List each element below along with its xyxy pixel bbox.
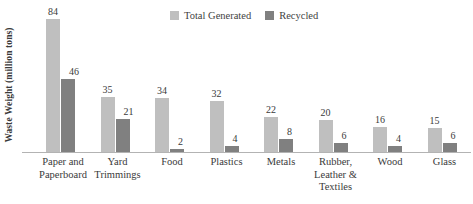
category-label-line: Paper and xyxy=(32,156,94,169)
bar-rect[interactable] xyxy=(264,117,278,152)
bar-rect[interactable] xyxy=(334,143,348,153)
bar-group: 3521 xyxy=(93,4,143,152)
bar-rect[interactable] xyxy=(116,119,130,152)
bar-group: 156 xyxy=(420,4,470,152)
y-axis-title: Waste Weight (million tons) xyxy=(2,20,16,150)
bar-total-generated[interactable]: 34 xyxy=(155,4,169,152)
bar-total-generated[interactable]: 84 xyxy=(46,4,60,152)
category-label-line: Paperboard xyxy=(32,169,94,182)
category-label-line: Food xyxy=(141,156,203,169)
bar-group: 8446 xyxy=(38,4,88,152)
bar-total-generated[interactable]: 15 xyxy=(428,4,442,152)
x-axis-category-label: YardTrimmings xyxy=(87,156,149,181)
category-label-line: Yard xyxy=(87,156,149,169)
bar-recycled[interactable]: 4 xyxy=(225,4,239,152)
category-label-line: Textiles xyxy=(305,181,367,194)
bar-rect[interactable] xyxy=(443,143,457,153)
bar-recycled[interactable]: 6 xyxy=(443,4,457,152)
bar-group: 164 xyxy=(365,4,415,152)
bar-recycled[interactable]: 21 xyxy=(116,4,130,152)
category-label-line: Rubber, xyxy=(305,156,367,169)
bar-recycled[interactable]: 4 xyxy=(388,4,402,152)
bar-rect[interactable] xyxy=(170,149,184,152)
bar-rect[interactable] xyxy=(388,146,402,152)
bar-rect[interactable] xyxy=(155,98,169,152)
plot-area: 84463521342324228206164156 xyxy=(22,4,471,153)
category-label-line: Glass xyxy=(414,156,473,169)
bar-rect[interactable] xyxy=(46,19,60,152)
bar-total-generated[interactable]: 35 xyxy=(101,4,115,152)
x-axis-category-label: Food xyxy=(141,156,203,169)
x-axis-category-label: Glass xyxy=(414,156,473,169)
bar-group: 342 xyxy=(147,4,197,152)
bar-recycled[interactable]: 6 xyxy=(334,4,348,152)
category-label-line: Trimmings xyxy=(87,169,149,182)
bar-group: 228 xyxy=(256,4,306,152)
bar-total-generated[interactable]: 22 xyxy=(264,4,278,152)
category-label-line: Plastics xyxy=(196,156,258,169)
bar-group: 324 xyxy=(202,4,252,152)
category-label-line: Leather & xyxy=(305,169,367,182)
x-axis-category-label: Paper andPaperboard xyxy=(32,156,94,181)
y-axis-title-text: Waste Weight (million tons) xyxy=(4,27,14,142)
bar-rect[interactable] xyxy=(210,101,224,152)
bar-recycled[interactable]: 46 xyxy=(61,4,75,152)
category-label-line: Wood xyxy=(359,156,421,169)
bar-rect[interactable] xyxy=(428,128,442,152)
x-axis-category-label: Metals xyxy=(250,156,312,169)
x-axis-category-label: Rubber,Leather &Textiles xyxy=(305,156,367,194)
bar-rect[interactable] xyxy=(279,139,293,152)
x-axis-category-labels: Paper andPaperboardYardTrimmingsFoodPlas… xyxy=(22,156,471,202)
x-axis-category-label: Plastics xyxy=(196,156,258,169)
bar-rect[interactable] xyxy=(225,146,239,152)
bar-group: 206 xyxy=(311,4,361,152)
bar-value-label: 6 xyxy=(451,130,473,141)
x-axis-line xyxy=(22,152,471,153)
x-axis-category-label: Wood xyxy=(359,156,421,169)
bar-chart: Total GeneratedRecycled Waste Weight (mi… xyxy=(0,0,473,204)
category-label-line: Metals xyxy=(250,156,312,169)
bar-recycled[interactable]: 2 xyxy=(170,4,184,152)
bar-total-generated[interactable]: 20 xyxy=(319,4,333,152)
bar-rect[interactable] xyxy=(101,97,115,152)
bar-total-generated[interactable]: 32 xyxy=(210,4,224,152)
bar-rect[interactable] xyxy=(373,127,387,152)
bar-rect[interactable] xyxy=(319,120,333,152)
bar-rect[interactable] xyxy=(61,79,75,152)
bar-total-generated[interactable]: 16 xyxy=(373,4,387,152)
bar-recycled[interactable]: 8 xyxy=(279,4,293,152)
